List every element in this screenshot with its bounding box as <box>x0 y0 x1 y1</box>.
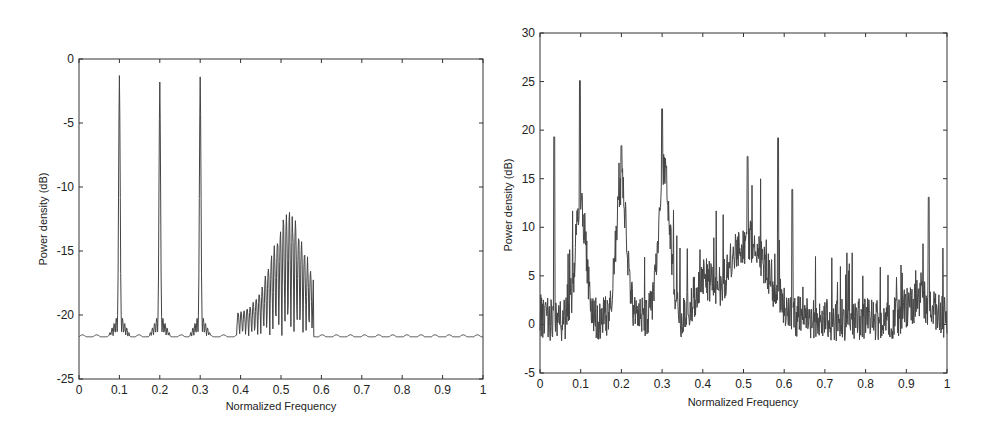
chart-left-xtick: 0 <box>76 383 83 397</box>
chart-left-xtick: 0.3 <box>192 383 209 397</box>
chart-right-xtick: 0.7 <box>817 377 834 391</box>
chart-right-ytick: 0 <box>528 317 535 331</box>
chart-left-plot-frame <box>79 59 483 379</box>
chart-left-ytick: -10 <box>57 180 75 194</box>
chart-right-xtick: 0.3 <box>654 377 671 391</box>
chart-right-xtick: 0.8 <box>857 377 874 391</box>
chart-right-xlabel: Normalized Frequency <box>688 396 799 408</box>
chart-right-xtick: 0.1 <box>572 377 589 391</box>
chart-left-svg: 00.10.20.30.40.50.60.70.80.910-5-10-15-2… <box>0 0 495 432</box>
chart-left-xtick: 0.6 <box>313 383 330 397</box>
chart-left-xtick: 1 <box>480 383 487 397</box>
chart-right-ytick: 15 <box>522 172 536 186</box>
chart-left-xtick: 0.8 <box>394 383 411 397</box>
chart-left-xtick: 0.2 <box>151 383 168 397</box>
chart-right-xtick: 0.9 <box>898 377 915 391</box>
chart-left-xtick: 0.9 <box>434 383 451 397</box>
chart-right-ylabel: Power density (dB) <box>502 159 514 252</box>
chart-right-svg: 00.10.20.30.40.50.60.70.80.9130252015105… <box>490 0 989 432</box>
chart-left-ytick: 0 <box>67 52 74 66</box>
chart-right-xtick: 0.6 <box>776 377 793 391</box>
chart-right-xtick: 0.2 <box>613 377 630 391</box>
chart-left-xtick: 0.5 <box>273 383 290 397</box>
chart-right-xtick: 1 <box>944 377 951 391</box>
chart-left-ylabel: Power density (dB) <box>37 173 49 266</box>
chart-left-ytick: -25 <box>57 372 75 386</box>
chart-right-ytick: 30 <box>522 26 536 40</box>
chart-right-xtick: 0.5 <box>735 377 752 391</box>
chart-right-trace <box>540 81 947 341</box>
chart-right-ytick: 5 <box>528 269 535 283</box>
chart-right-ytick: -5 <box>524 366 535 380</box>
chart-left-ytick: -5 <box>63 116 74 130</box>
chart-right-xtick: 0.4 <box>694 377 711 391</box>
chart-left-trace <box>79 76 483 337</box>
chart-right-xtick: 0 <box>537 377 544 391</box>
chart-left-ytick: -15 <box>57 244 75 258</box>
chart-right-ytick: 10 <box>522 220 536 234</box>
chart-left-xtick: 0.7 <box>353 383 370 397</box>
chart-left-ytick: -20 <box>57 308 75 322</box>
chart-right-psd: 00.10.20.30.40.50.60.70.80.9130252015105… <box>490 0 989 432</box>
chart-left-xtick: 0.4 <box>232 383 249 397</box>
chart-left-xtick: 0.1 <box>111 383 128 397</box>
chart-right-ytick: 25 <box>522 75 536 89</box>
chart-left-xlabel: Normalized Frequency <box>226 400 337 412</box>
chart-right-ytick: 20 <box>522 123 536 137</box>
chart-left-psd: 00.10.20.30.40.50.60.70.80.910-5-10-15-2… <box>0 0 495 432</box>
